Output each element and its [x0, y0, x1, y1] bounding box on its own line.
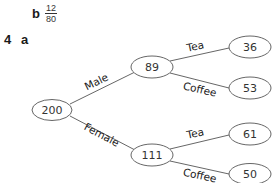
node-female-value: 111: [142, 149, 163, 162]
branch-label-female: Female: [82, 120, 121, 148]
branch-label-male: Male: [82, 71, 110, 93]
node-male-coffee-value: 53: [243, 82, 257, 95]
node-female-tea-value: 61: [243, 128, 257, 141]
node-male-value: 89: [145, 61, 159, 74]
branch-label-female-coffee: Coffee: [182, 166, 218, 183]
branch-label-male-coffee: Coffee: [182, 79, 218, 98]
node-root-value: 200: [42, 104, 63, 117]
branch-label-male-tea: Tea: [184, 38, 205, 54]
node-male-tea-value: 36: [243, 41, 257, 54]
tree-diagram: 200 89 111 36 53 61 50 Male Female Tea C…: [0, 0, 274, 183]
node-female-coffee-value: 50: [243, 168, 257, 181]
branch-label-female-tea: Tea: [184, 125, 205, 141]
